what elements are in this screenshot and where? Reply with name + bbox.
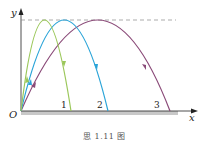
trajectory-3-arrow-down-icon	[142, 64, 146, 70]
ground-band	[21, 111, 178, 115]
landing-label-2: 2	[97, 100, 103, 110]
y-axis-arrow-icon	[19, 8, 24, 15]
trajectory-diagram: y x O 1 2 3	[0, 0, 209, 148]
origin-label: O	[9, 109, 17, 120]
landing-label-3: 3	[154, 100, 160, 110]
figure-caption: 思 1.11 图	[0, 130, 209, 141]
landing-label-1: 1	[61, 100, 67, 110]
x-axis-label: x	[189, 112, 195, 123]
y-axis-label: y	[10, 7, 17, 18]
